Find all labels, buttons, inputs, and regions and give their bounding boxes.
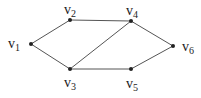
node-label-v2: v2	[64, 3, 76, 19]
edge-v3-v4	[70, 21, 131, 69]
node-v3	[68, 67, 72, 71]
edge-v4-v6	[131, 21, 173, 46]
edge-v1-v3	[31, 44, 70, 69]
node-label-v1: v1	[8, 37, 20, 53]
edge-v5-v6	[131, 46, 173, 69]
label-base: v	[126, 3, 133, 18]
label-subscript: 5	[133, 82, 138, 93]
node-v1	[29, 42, 33, 46]
edge-v2-v4	[70, 20, 131, 21]
node-label-v6: v6	[182, 40, 194, 56]
label-subscript: 3	[71, 81, 76, 92]
graph-canvas	[0, 0, 201, 98]
label-subscript: 1	[15, 42, 20, 53]
label-base: v	[8, 36, 15, 51]
label-base: v	[64, 75, 71, 90]
node-v5	[129, 67, 133, 71]
label-subscript: 4	[133, 9, 138, 20]
node-label-v3: v3	[64, 76, 76, 92]
graph-diagram: v1v2v3v4v5v6	[0, 0, 201, 98]
node-v6	[171, 44, 175, 48]
label-subscript: 6	[189, 45, 194, 56]
label-subscript: 2	[71, 8, 76, 19]
label-base: v	[64, 2, 71, 17]
label-base: v	[126, 76, 133, 91]
label-base: v	[182, 39, 189, 54]
node-label-v4: v4	[126, 4, 138, 20]
node-label-v5: v5	[126, 77, 138, 93]
edge-v1-v2	[31, 20, 70, 44]
